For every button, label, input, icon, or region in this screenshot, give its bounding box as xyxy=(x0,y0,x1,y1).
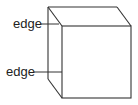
labels: edge edge xyxy=(6,16,62,79)
top-edge-label: edge xyxy=(13,16,42,31)
top-right-edge xyxy=(117,7,131,26)
bottom-edge-label: edge xyxy=(6,64,35,79)
front-face xyxy=(62,26,131,98)
top-left-edge xyxy=(48,7,62,26)
bottom-left-edge xyxy=(48,79,62,98)
cube xyxy=(48,7,131,98)
cube-diagram: edge edge xyxy=(0,0,138,105)
